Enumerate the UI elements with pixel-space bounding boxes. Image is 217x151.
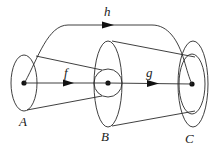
mapping-diagram: A B C f g h bbox=[0, 0, 217, 151]
node-b-label: B bbox=[101, 129, 109, 144]
node-a-label: A bbox=[18, 114, 27, 129]
edge-h-path bbox=[25, 25, 192, 84]
edge-g-label: g bbox=[146, 65, 153, 80]
cone-a-b-bottom-edge bbox=[27, 96, 102, 110]
cone-a-b-top-edge bbox=[36, 56, 102, 70]
cone-b-c-bottom-edge bbox=[112, 111, 195, 126]
node-c-label: C bbox=[185, 131, 194, 146]
edge-f-label: f bbox=[64, 65, 70, 80]
edge-f-arrowhead bbox=[63, 80, 74, 87]
edge-h-arrowhead bbox=[102, 22, 114, 29]
edge-h: h bbox=[25, 4, 192, 84]
edge-h-label: h bbox=[104, 4, 111, 19]
node-b: B bbox=[94, 41, 122, 144]
edge-g-arrowhead bbox=[147, 80, 159, 87]
